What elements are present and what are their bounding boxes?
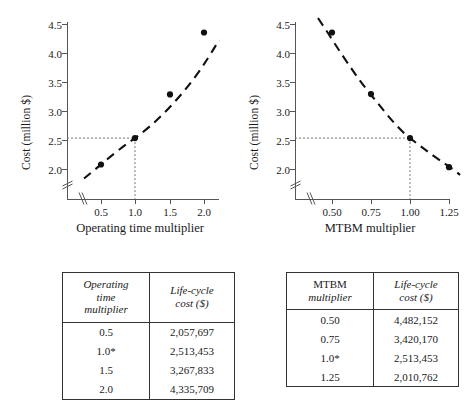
table-mtbm: MTBM multiplier Life-cycle cost ($) 0.50… xyxy=(286,272,459,387)
table-row: 1.5 3,267,833 xyxy=(63,361,235,380)
right-data-point xyxy=(329,29,335,35)
table-header-row: MTBM multiplier Life-cycle cost ($) xyxy=(287,273,459,310)
left-chart-x-axis-title: Operating time multiplier xyxy=(45,221,235,236)
header-line: cost ($) xyxy=(399,291,432,303)
right-data-point xyxy=(446,164,452,170)
left-data-point xyxy=(98,161,104,167)
right-chart-plot-area xyxy=(230,0,460,245)
right-data-point xyxy=(407,135,413,141)
cell-cost: 3,267,833 xyxy=(150,361,235,380)
header-cell-operating-time-multiplier: Operating time multiplier xyxy=(63,273,150,323)
cell-multiplier: 0.5 xyxy=(63,322,150,342)
table-operating-time: Operating time multiplier Life-cycle cos… xyxy=(62,272,235,400)
cell-multiplier: 1.0* xyxy=(287,348,374,367)
header-cell-life-cycle-cost: Life-cycle cost ($) xyxy=(150,273,235,323)
header-line: multiplier xyxy=(84,303,127,315)
left-data-point xyxy=(132,135,138,141)
header-line: multiplier xyxy=(308,291,351,303)
cell-cost: 2,513,453 xyxy=(374,348,459,367)
right-chart-x-axis-title: MTBM multiplier xyxy=(285,221,455,236)
header-line: Life-cycle xyxy=(394,278,437,290)
chart-mtbm: Cost (million $) 4.5 4.0 3.5 3.0 2.5 2.0… xyxy=(230,0,460,245)
cell-cost: 2,513,453 xyxy=(150,342,235,361)
header-cell-mtbm-multiplier: MTBM multiplier xyxy=(287,273,374,310)
cell-multiplier: 0.75 xyxy=(287,329,374,348)
table-row: 1.0* 2,513,453 xyxy=(287,348,459,367)
table-header-row: Operating time multiplier Life-cycle cos… xyxy=(63,273,235,323)
table-row: 0.75 3,420,170 xyxy=(287,329,459,348)
cell-multiplier: 1.25 xyxy=(287,367,374,387)
right-data-curve xyxy=(318,18,460,175)
chart-operating-time: Cost (million $) 4.5 4.0 3.5 3.0 2.5 2.0… xyxy=(0,0,230,245)
table-row: 2.0 4,335,709 xyxy=(63,380,235,400)
cell-cost: 4,482,152 xyxy=(374,310,459,330)
cell-cost: 3,420,170 xyxy=(374,329,459,348)
cell-multiplier: 1.5 xyxy=(63,361,150,380)
left-data-point xyxy=(201,29,207,35)
left-data-point xyxy=(167,91,173,97)
cell-cost: 2,057,697 xyxy=(150,322,235,342)
table-row: 1.25 2,010,762 xyxy=(287,367,459,387)
cell-multiplier: 0.50 xyxy=(287,310,374,330)
table-row: 1.0* 2,513,453 xyxy=(63,342,235,361)
header-line: Operating xyxy=(83,278,128,290)
cell-cost: 4,335,709 xyxy=(150,380,235,400)
right-data-point xyxy=(368,91,374,97)
header-cell-life-cycle-cost: Life-cycle cost ($) xyxy=(374,273,459,310)
table-row: 0.5 2,057,697 xyxy=(63,322,235,342)
left-data-curve xyxy=(84,40,219,179)
header-line: time xyxy=(97,291,116,303)
cell-cost: 2,010,762 xyxy=(374,367,459,387)
header-line: Life-cycle xyxy=(170,284,213,296)
header-line: cost ($) xyxy=(175,297,208,309)
cell-multiplier: 2.0 xyxy=(63,380,150,400)
header-line: MTBM xyxy=(313,278,347,290)
cell-multiplier: 1.0* xyxy=(63,342,150,361)
left-chart-plot-area xyxy=(0,0,230,245)
table-row: 0.50 4,482,152 xyxy=(287,310,459,330)
